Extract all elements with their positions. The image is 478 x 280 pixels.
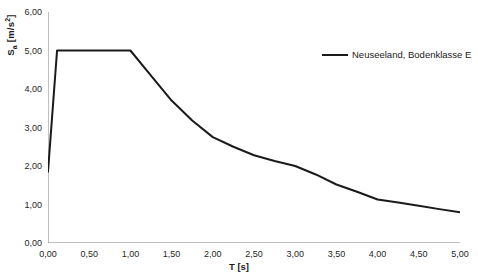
x-axis-tick-label: 0,50 bbox=[80, 249, 98, 259]
plot-area: 0,001,002,003,004,005,006,00 0,000,501,0… bbox=[48, 12, 460, 243]
y-axis-title-unit-post: ] bbox=[5, 14, 16, 17]
x-axis-title: T [s] bbox=[0, 261, 478, 272]
y-axis-title-subscript: a bbox=[11, 45, 18, 49]
x-axis-tick-label: 1,00 bbox=[122, 249, 140, 259]
y-axis-tick-label: 1,00 bbox=[24, 200, 42, 210]
x-axis-tick-label: 4,00 bbox=[369, 249, 387, 259]
y-axis-tick-label: 0,00 bbox=[24, 238, 42, 248]
y-axis-tick-label: 3,00 bbox=[24, 123, 42, 133]
y-axis-tick-label: 6,00 bbox=[24, 7, 42, 17]
y-axis-tick-label: 2,00 bbox=[24, 161, 42, 171]
chart-legend: Neuseeland, Bodenklasse E bbox=[322, 49, 471, 60]
x-axis-tick-label: 1,50 bbox=[163, 249, 181, 259]
x-axis-tick-label: 0,00 bbox=[39, 249, 57, 259]
x-axis-tick-label: 3,00 bbox=[286, 249, 304, 259]
series-line-0 bbox=[48, 51, 460, 213]
x-axis-tick-label: 3,50 bbox=[328, 249, 346, 259]
y-axis-title-unit-pre: [m/s bbox=[5, 22, 16, 45]
x-axis-tick-label: 5,00 bbox=[451, 249, 469, 259]
y-axis-tick-label: 5,00 bbox=[24, 46, 42, 56]
x-axis-tick-label: 2,00 bbox=[204, 249, 222, 259]
y-axis-tick-label: 4,00 bbox=[24, 84, 42, 94]
legend-line-swatch bbox=[322, 54, 348, 56]
plot-canvas bbox=[48, 12, 460, 247]
y-axis-title: Sa [m/s2] bbox=[4, 4, 18, 66]
y-axis-title-symbol: S bbox=[5, 49, 16, 56]
y-axis-title-unit-exponent: 2 bbox=[4, 18, 11, 22]
x-axis-tick-label: 2,50 bbox=[245, 249, 263, 259]
series-line-chart bbox=[48, 12, 460, 243]
legend-label: Neuseeland, Bodenklasse E bbox=[352, 49, 471, 60]
x-axis-tick-label: 4,50 bbox=[410, 249, 428, 259]
chart-figure: Sa [m/s2] T [s] 0,001,002,003,004,005,00… bbox=[0, 0, 478, 280]
